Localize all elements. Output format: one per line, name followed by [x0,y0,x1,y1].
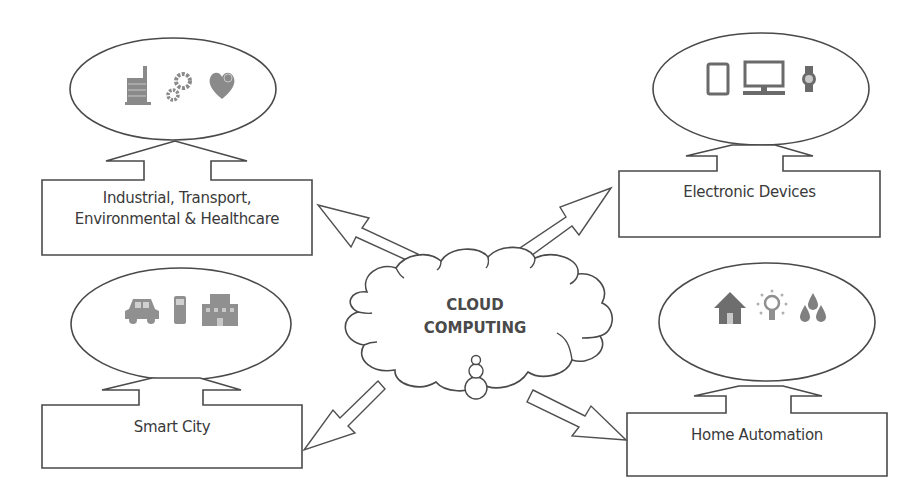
heart-icon [207,65,237,105]
electronic-label: Electronic Devices [619,182,880,203]
phone-icon [172,294,188,326]
lightbulb-icon [756,289,788,327]
industrial-icons [118,60,243,110]
gears-icon [164,64,194,106]
arrow-to-electronic [520,188,611,258]
arrow-to-industrial [318,205,418,263]
electronic-label-line1: Electronic Devices [619,182,880,203]
industrial-label-line2: Environmental & Healthcare [42,209,312,230]
smartcity-icons [118,290,246,330]
home-label-line1: Home Automation [627,425,887,446]
cloud-title: CLOUD COMPUTING [410,294,540,340]
desktop-icon [741,60,787,98]
electronic-icons [700,58,825,100]
cloud-computing-diagram: Industrial, Transport, Environmental & H… [0,0,924,497]
home-label: Home Automation [627,425,887,446]
house-icon [713,290,747,326]
arrow-to-home [527,390,626,440]
smartcity-label-line1: Smart City [42,417,302,438]
home-icons [708,288,833,328]
industrial-label: Industrial, Transport, Environmental & H… [42,188,312,230]
water-drops-icon [798,291,828,325]
factory-icon [125,64,151,106]
building-icon [200,292,240,328]
industrial-label-line1: Industrial, Transport, [42,188,312,209]
cloud-title-line1: CLOUD [410,294,540,317]
arrow-to-smartcity [304,381,385,450]
tablet-icon [706,61,730,97]
car-icon [124,295,160,325]
smartwatch-icon [799,64,819,94]
cloud-title-line2: COMPUTING [410,317,540,340]
smartcity-label: Smart City [42,417,302,438]
